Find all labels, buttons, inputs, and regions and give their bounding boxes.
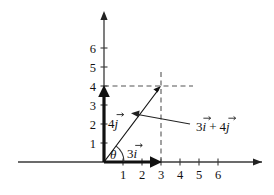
vector-diagram: 1 2 3 4 5 6 1 2 3 4 5 6 θ 4j: [0, 0, 274, 195]
angle-arc-group: θ: [110, 146, 124, 162]
x-tick-label-4: 4: [177, 168, 184, 182]
x-tick-label-6: 6: [215, 168, 221, 182]
angle-label: θ: [110, 147, 117, 162]
y-tick-label-1: 1: [90, 137, 96, 151]
axes-group: [18, 11, 262, 166]
x-component-label: 3i: [127, 144, 142, 161]
x-tick-label-2: 2: [139, 168, 145, 182]
resultant-plus-sign: +: [209, 119, 216, 134]
y-tick-label-6: 6: [90, 42, 96, 56]
y-axis-tick-labels: 1 2 3 4 5 6: [90, 42, 97, 151]
y-tick-label-5: 5: [90, 61, 96, 75]
resultant-lhs-unit: i: [203, 119, 207, 134]
y-axis-arrowhead: [100, 11, 107, 20]
resultant-callout-leader-shaft: [135, 114, 190, 124]
x-axis-tick-labels: 1 2 3 4 5 6: [120, 168, 221, 182]
x-tick-label-5: 5: [196, 168, 202, 182]
resultant-vector-arrowhead: [153, 86, 161, 92]
resultant-callout-label: 3i+4j: [196, 117, 236, 135]
svg-text:4j: 4j: [108, 116, 119, 131]
y-tick-label-3: 3: [90, 99, 96, 113]
y-component-vector-arrowhead: [98, 85, 110, 97]
x-tick-label-3: 3: [158, 168, 164, 182]
y-tick-label-2: 2: [90, 118, 96, 132]
x-tick-label-1: 1: [120, 168, 126, 182]
resultant-callout-leader-arrowhead: [131, 111, 140, 118]
x-component-unit: i: [134, 146, 138, 161]
x-axis-arrowhead: [253, 158, 262, 165]
x-component-vector-arrowhead: [150, 156, 162, 168]
y-component-label: 4j: [108, 113, 124, 131]
svg-text:3i+4j: 3i+4j: [196, 119, 230, 134]
svg-text:3i: 3i: [127, 146, 138, 161]
y-tick-label-4: 4: [90, 80, 97, 94]
